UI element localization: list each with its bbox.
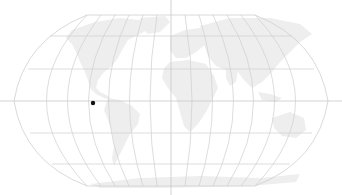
world-map[interactable] [0,0,342,195]
location-marker[interactable] [91,101,95,105]
map-canvas[interactable] [0,0,342,195]
